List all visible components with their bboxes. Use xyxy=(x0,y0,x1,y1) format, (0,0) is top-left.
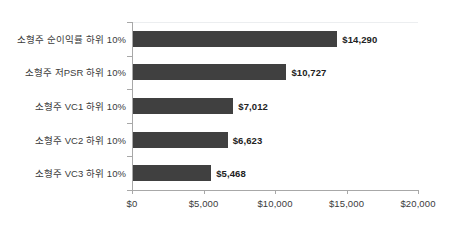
bar xyxy=(133,165,211,181)
x-axis-tick xyxy=(347,190,348,194)
category-label: 소형주 VC3 하위 10% xyxy=(35,166,126,180)
x-axis-tick-label: $15,000 xyxy=(329,198,364,209)
plot-top-border xyxy=(132,22,418,23)
bar-chart: $0$5,000$10,000$15,000$20,000 소형주 순이익률 하… xyxy=(0,0,464,232)
category-label: 소형주 VC1 하위 10% xyxy=(35,99,126,113)
bar xyxy=(133,31,337,47)
category-label: 소형주 저PSR 하위 10% xyxy=(25,65,126,79)
bar xyxy=(133,64,286,80)
bar-value-label: $7,012 xyxy=(238,101,268,112)
y-axis-tick xyxy=(127,123,132,124)
x-axis-tick-label: $5,000 xyxy=(189,198,219,209)
category-label: 소형주 VC2 하위 10% xyxy=(35,133,126,147)
bar-value-label: $6,623 xyxy=(233,134,263,145)
y-axis-tick xyxy=(127,156,132,157)
x-axis-tick xyxy=(132,190,133,194)
x-axis-tick xyxy=(418,190,419,194)
y-axis-tick xyxy=(127,89,132,90)
x-axis-tick-label: $20,000 xyxy=(400,198,435,209)
x-axis-tick-label: $0 xyxy=(127,198,138,209)
y-axis-tick xyxy=(127,22,132,23)
bar-value-label: $10,727 xyxy=(291,67,326,78)
x-axis-tick xyxy=(275,190,276,194)
x-axis-tick xyxy=(204,190,205,194)
bar xyxy=(133,98,233,114)
y-axis-tick xyxy=(127,190,132,191)
y-axis-tick xyxy=(127,56,132,57)
bar-value-label: $5,468 xyxy=(216,168,246,179)
x-axis-tick-label: $10,000 xyxy=(257,198,292,209)
bar xyxy=(133,132,228,148)
category-label: 소형주 순이익률 하위 10% xyxy=(17,32,126,46)
bar-value-label: $14,290 xyxy=(342,33,377,44)
